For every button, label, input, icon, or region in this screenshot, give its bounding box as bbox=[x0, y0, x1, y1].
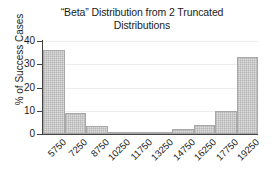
bar-8750 bbox=[86, 126, 108, 134]
gridline-20 bbox=[43, 88, 258, 89]
bar-10250 bbox=[108, 132, 130, 134]
bar-14750 bbox=[172, 129, 194, 134]
gridline-30 bbox=[43, 64, 258, 65]
bar-11750 bbox=[129, 132, 151, 134]
gridline-40 bbox=[43, 41, 258, 42]
chart-title: “Beta” Distribution from 2 Truncated Dis… bbox=[22, 6, 262, 31]
x-axis-line bbox=[42, 134, 258, 135]
y-tick-mark-0 bbox=[37, 134, 42, 135]
y-tick-text: 30 bbox=[24, 59, 35, 69]
bar-5750 bbox=[43, 50, 65, 134]
bar-7250 bbox=[65, 113, 87, 134]
bar-17750 bbox=[215, 111, 237, 134]
y-tick-label-20: 20 bbox=[0, 83, 35, 93]
bar-13250 bbox=[151, 132, 173, 134]
y-tick-label-0: 0 bbox=[0, 129, 35, 139]
y-tick-label-40: 40 bbox=[0, 36, 35, 46]
y-tick-text: 40 bbox=[24, 36, 35, 46]
plot-area bbox=[43, 41, 258, 134]
bar-chart: “Beta” Distribution from 2 Truncated Dis… bbox=[0, 0, 279, 177]
y-tick-label-10: 10 bbox=[0, 106, 35, 116]
bar-16250 bbox=[194, 125, 216, 134]
y-tick-mark-30 bbox=[37, 64, 42, 65]
y-tick-mark-40 bbox=[37, 41, 42, 42]
y-tick-text: 20 bbox=[24, 83, 35, 93]
y-tick-label-30: 30 bbox=[0, 59, 35, 69]
bar-19250 bbox=[237, 57, 259, 134]
y-tick-mark-10 bbox=[37, 111, 42, 112]
y-tick-text: 10 bbox=[24, 106, 35, 116]
y-tick-text: 0 bbox=[29, 129, 35, 139]
y-tick-mark-20 bbox=[37, 88, 42, 89]
